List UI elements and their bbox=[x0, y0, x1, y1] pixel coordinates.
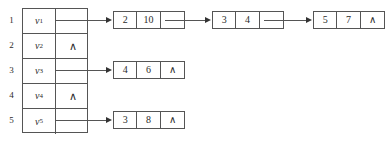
node-vertex: 3 bbox=[213, 12, 236, 28]
row-index-2: 2 bbox=[5, 33, 18, 58]
connector-row3-table-to-node1 bbox=[56, 70, 108, 71]
connector-row1-node1-to-node2 bbox=[165, 20, 207, 21]
row-index-4: 4 bbox=[5, 83, 18, 108]
node-vertex: 4 bbox=[114, 62, 137, 78]
node-link-nil: ∧ bbox=[161, 62, 184, 78]
vertex-subscript-4: 4 bbox=[39, 93, 43, 100]
arrowhead-row5-node1 bbox=[106, 117, 112, 123]
row-index-1: 1 bbox=[5, 8, 18, 33]
node-weight: 10 bbox=[137, 12, 160, 28]
vertex-pointer-1 bbox=[56, 9, 89, 33]
vertex-row-4: v4 ∧ bbox=[23, 84, 87, 109]
vertex-label-4: v4 bbox=[23, 84, 56, 108]
list-node-row1-3: 5 7 ∧ bbox=[313, 11, 385, 29]
vertex-label-3: v3 bbox=[23, 59, 56, 83]
list-node-row5-1: 3 8 ∧ bbox=[113, 111, 185, 129]
vertex-subscript-3: 3 bbox=[39, 68, 43, 75]
arrowhead-row1-node1 bbox=[106, 17, 112, 23]
vertex-subscript-1: 1 bbox=[39, 18, 43, 25]
row-index-3: 3 bbox=[5, 58, 18, 83]
vertex-pointer-4: ∧ bbox=[56, 84, 89, 108]
vertex-subscript-5: 5 bbox=[39, 118, 43, 125]
node-vertex: 5 bbox=[314, 12, 337, 28]
vertex-row-1: v1 bbox=[23, 9, 87, 34]
vertex-subscript-2: 2 bbox=[39, 43, 43, 50]
node-weight: 8 bbox=[137, 112, 160, 128]
node-link-nil: ∧ bbox=[161, 112, 184, 128]
arrowhead-row3-node1 bbox=[106, 67, 112, 73]
connector-row1-node2-to-node3 bbox=[264, 20, 308, 21]
vertex-pointer-3 bbox=[56, 59, 89, 83]
vertex-label-5: v5 bbox=[23, 109, 56, 134]
vertex-row-3: v3 bbox=[23, 59, 87, 84]
list-node-row3-1: 4 6 ∧ bbox=[113, 61, 185, 79]
node-weight: 6 bbox=[137, 62, 160, 78]
adjacency-list-diagram: 1 2 3 4 5 v1 v2 ∧ v3 v4 ∧ bbox=[0, 0, 390, 142]
vertex-row-5: v5 bbox=[23, 109, 87, 134]
node-vertex: 2 bbox=[114, 12, 137, 28]
row-index-5: 5 bbox=[5, 108, 18, 133]
node-vertex: 3 bbox=[114, 112, 137, 128]
node-weight: 4 bbox=[236, 12, 259, 28]
connector-row1-table-to-node1 bbox=[56, 20, 108, 21]
arrowhead-row1-node3 bbox=[306, 17, 312, 23]
vertex-row-2: v2 ∧ bbox=[23, 34, 87, 59]
vertex-pointer-5 bbox=[56, 109, 89, 134]
vertex-pointer-2: ∧ bbox=[56, 34, 89, 58]
arrowhead-row1-node2 bbox=[205, 17, 211, 23]
node-weight: 7 bbox=[337, 12, 360, 28]
connector-row5-table-to-node1 bbox=[56, 120, 108, 121]
vertex-label-1: v1 bbox=[23, 9, 56, 33]
vertex-label-2: v2 bbox=[23, 34, 56, 58]
node-link-nil: ∧ bbox=[361, 12, 384, 28]
